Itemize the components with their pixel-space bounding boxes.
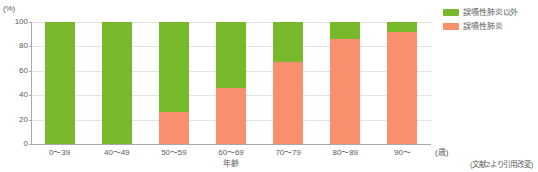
legend-swatch-green <box>443 9 459 16</box>
y-tick-mark-0 <box>29 144 32 145</box>
bar-segment-other-90〜 <box>387 22 417 32</box>
bar-40〜49 <box>102 22 132 144</box>
bar-segment-aspiration-80〜89 <box>330 39 360 144</box>
x-tick-label-60〜69: 60〜69 <box>202 148 259 157</box>
y-tick-label-40: 40 <box>19 91 28 99</box>
x-axis-line <box>31 144 431 145</box>
bar-70〜79 <box>273 22 303 144</box>
bar-segment-aspiration-50〜59 <box>159 112 189 144</box>
bar-80〜89 <box>330 22 360 144</box>
y-tick-label-100: 100 <box>15 18 28 26</box>
y-tick-mark-40 <box>29 95 32 96</box>
y-axis-line <box>31 22 32 145</box>
x-tick-label-40〜49: 40〜49 <box>88 148 145 157</box>
bar-segment-other-0〜39 <box>45 22 75 144</box>
plot-area: 020406080100 0〜3940〜4950〜5960〜6970〜7980〜… <box>31 22 431 145</box>
bar-segment-aspiration-60〜69 <box>216 88 246 144</box>
y-tick-mark-80 <box>29 46 32 47</box>
y-tick-mark-60 <box>29 71 32 72</box>
legend-item-aspiration: 誤嚥性肺炎 <box>443 22 518 31</box>
y-tick-label-0: 0 <box>24 140 28 148</box>
chart-legend: 誤嚥性肺炎以外 誤嚥性肺炎 <box>443 8 518 36</box>
y-tick-label-80: 80 <box>19 42 28 50</box>
y-axis-unit-label: (%) <box>3 4 15 13</box>
x-tick-label-80〜89: 80〜89 <box>317 148 374 157</box>
y-tick-label-60: 60 <box>19 67 28 75</box>
y-tick-mark-100 <box>29 22 32 23</box>
bar-60〜69 <box>216 22 246 144</box>
bar-segment-other-50〜59 <box>159 22 189 112</box>
x-tick-label-90〜: 90〜 <box>374 148 431 157</box>
y-tick-mark-20 <box>29 120 32 121</box>
legend-label-other: 誤嚥性肺炎以外 <box>463 8 518 17</box>
x-axis-title: 年齢 <box>31 159 431 168</box>
chart-figure: (%) 020406080100 0〜3940〜4950〜5960〜6970〜7… <box>0 0 538 172</box>
legend-label-aspiration: 誤嚥性肺炎 <box>463 22 503 31</box>
bar-segment-aspiration-90〜 <box>387 32 417 144</box>
source-note: (文献2より引用改変) <box>470 160 533 169</box>
x-tick-label-70〜79: 70〜79 <box>260 148 317 157</box>
x-tick-label-50〜59: 50〜59 <box>145 148 202 157</box>
bar-50〜59 <box>159 22 189 144</box>
legend-swatch-orange <box>443 23 459 30</box>
y-tick-label-20: 20 <box>19 116 28 124</box>
bar-segment-other-60〜69 <box>216 22 246 88</box>
bar-segment-other-80〜89 <box>330 22 360 39</box>
bar-segment-aspiration-70〜79 <box>273 62 303 144</box>
bar-segment-other-70〜79 <box>273 22 303 62</box>
bar-0〜39 <box>45 22 75 144</box>
bar-segment-other-40〜49 <box>102 22 132 144</box>
legend-item-other: 誤嚥性肺炎以外 <box>443 8 518 17</box>
x-tick-label-0〜39: 0〜39 <box>31 148 88 157</box>
x-axis-unit-label: (歳) <box>435 148 448 157</box>
bar-90〜 <box>387 22 417 144</box>
